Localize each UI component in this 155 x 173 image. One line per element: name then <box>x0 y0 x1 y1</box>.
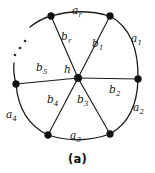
spoke-label-b-r-base: b <box>61 30 68 42</box>
figure-caption: (a) <box>0 152 155 166</box>
spoke-label-b-3: b3 <box>77 94 88 105</box>
spoke-b-4 <box>48 78 78 135</box>
rim-label-a-1: a1 <box>131 33 142 44</box>
spoke-label-b-5-base: b <box>36 61 43 73</box>
spoke-b-2 <box>78 78 138 79</box>
spoke-label-b-r: br <box>61 31 71 42</box>
spoke-label-b-3-base: b <box>77 93 84 105</box>
spoke-label-b-1: b1 <box>92 38 103 49</box>
rim-label-a-4-sub: 4 <box>13 115 17 123</box>
spoke-label-b-4: b4 <box>47 94 58 105</box>
spoke-label-b-3-sub: 3 <box>84 100 88 108</box>
graph-drawing <box>0 0 155 173</box>
rim-label-a-2: a2 <box>133 102 144 113</box>
rim-arc-a-4 <box>16 84 48 135</box>
spoke-label-b-1-sub: 1 <box>99 44 103 52</box>
rim-label-a-r: ar <box>72 5 82 16</box>
rim-label-a-r-base: a <box>72 4 78 16</box>
rim-label-a-1-sub: 1 <box>138 39 142 47</box>
rim-vertex-right <box>135 76 142 83</box>
hub-vertex <box>74 74 82 82</box>
spoke-label-b-1-base: b <box>92 37 99 49</box>
rim-label-a-3-base: a <box>70 129 76 141</box>
rim-arc-a-1 <box>110 16 138 79</box>
rim-vertex-bottom-left <box>45 132 52 139</box>
spoke-label-b-4-sub: 4 <box>54 100 58 108</box>
spoke-b-5 <box>16 78 78 84</box>
ellipsis-dot-3 <box>14 54 17 57</box>
ellipsis-dot-1 <box>24 40 27 43</box>
rim-label-a-2-sub: 2 <box>140 108 144 116</box>
figure-wheel-graph: ar a1 a2 a3 a4 br b1 b2 b3 b4 b5 h (a) <box>0 0 155 173</box>
rim-label-a-1-base: a <box>131 32 137 44</box>
ellipsis-dot-2 <box>19 47 22 50</box>
spoke-label-b-2-sub: 2 <box>116 90 120 98</box>
spoke-label-b-2: b2 <box>109 84 120 95</box>
rim-vertex-top-left <box>48 13 55 20</box>
rim-label-a-4: a4 <box>6 109 17 120</box>
rim-vertex-bottom-right <box>107 131 114 138</box>
spoke-label-b-5: b5 <box>36 62 47 73</box>
rim-label-a-3: a3 <box>70 130 81 141</box>
rim-label-a-4-base: a <box>6 108 12 120</box>
spoke-label-b-r-sub: r <box>68 37 71 45</box>
spoke-label-b-2-base: b <box>109 83 116 95</box>
rim-label-a-3-sub: 3 <box>77 136 81 144</box>
spoke-b-3 <box>78 78 110 134</box>
spoke-label-b-4-base: b <box>47 93 54 105</box>
rim-vertex-left <box>13 81 20 88</box>
rim-vertex-top-right <box>107 13 114 20</box>
hub-vertex-label: h <box>64 64 71 75</box>
rim-label-a-2-base: a <box>133 101 139 113</box>
rim-label-a-r-sub: r <box>79 11 82 19</box>
spoke-label-b-5-sub: 5 <box>43 68 47 76</box>
